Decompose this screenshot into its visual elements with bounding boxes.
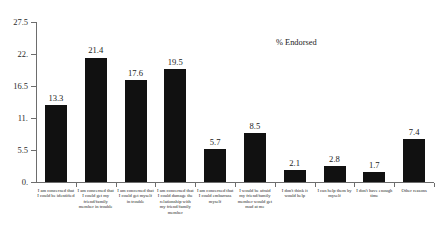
y-tick-label: 16.5 xyxy=(0,82,28,91)
category-label: I can help them by myself xyxy=(316,188,354,199)
x-tick-mark xyxy=(275,183,276,187)
y-tick-label: 11. xyxy=(0,114,28,123)
bar-value-label: 17.6 xyxy=(112,69,160,78)
category-label: I would be afraid my friend/family membe… xyxy=(236,188,274,210)
bar xyxy=(164,69,186,182)
category-label: I am concerned that I could damage the r… xyxy=(156,188,194,215)
bar-chart: 0.5.511.16.522.27.5 13.321.417.619.55.78… xyxy=(0,0,446,246)
bar-value-label: 7.4 xyxy=(390,128,438,137)
y-tick-mark xyxy=(31,182,36,183)
bar xyxy=(363,172,385,182)
chart-annotation: % Endorsed xyxy=(276,38,317,47)
bar-value-label: 1.7 xyxy=(350,161,398,170)
y-tick-label: 0. xyxy=(0,178,28,187)
bar-value-label: 13.3 xyxy=(32,94,80,103)
x-tick-mark xyxy=(116,183,117,187)
bar xyxy=(85,58,107,183)
y-tick-label: 5.5 xyxy=(0,146,28,155)
bar-value-label: 19.5 xyxy=(151,58,199,67)
x-tick-mark xyxy=(354,183,355,187)
bar-value-label: 21.4 xyxy=(72,46,120,55)
x-tick-mark xyxy=(434,183,435,187)
category-label: I am concerned that I could get my frien… xyxy=(77,188,115,210)
category-label: I don't have enough time xyxy=(355,188,393,199)
bar xyxy=(403,139,425,182)
bar-value-label: 8.5 xyxy=(231,122,279,131)
bar xyxy=(244,133,266,182)
x-tick-mark xyxy=(315,183,316,187)
category-label: I am concerned that I could get myself i… xyxy=(117,188,155,204)
bar-value-label: 5.7 xyxy=(191,138,239,147)
plot-area: 13.321.417.619.55.78.52.12.81.77.4 xyxy=(36,22,434,182)
bar xyxy=(284,170,306,182)
y-tick-label: 27.5 xyxy=(0,18,28,27)
bar xyxy=(204,149,226,182)
x-tick-mark xyxy=(155,183,156,187)
x-tick-mark xyxy=(195,183,196,187)
category-label: I don't think it would help xyxy=(276,188,314,199)
y-tick-label: 22. xyxy=(0,50,28,59)
bar xyxy=(324,166,346,182)
category-label: Other reasons xyxy=(395,188,433,193)
x-tick-mark xyxy=(394,183,395,187)
bar xyxy=(45,105,67,182)
x-tick-mark xyxy=(76,183,77,187)
x-tick-mark xyxy=(235,183,236,187)
bar xyxy=(125,80,147,182)
category-label: I am concerned that I could embarrass my… xyxy=(196,188,234,204)
category-label: I am concerned that I could be identifie… xyxy=(37,188,75,199)
